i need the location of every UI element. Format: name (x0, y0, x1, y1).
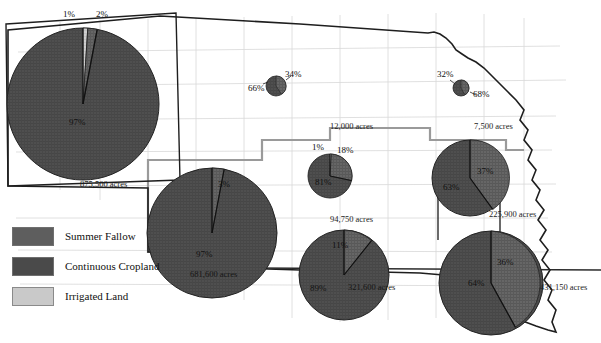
pie-north-central-label-fallow: 34% (285, 70, 302, 79)
pie-central-acres-top: 12,000 acres (330, 122, 373, 131)
legend-label-continuous-cropland: Continuous Cropland (65, 260, 159, 272)
pie-north-central-label-cropland: 66% (248, 84, 265, 93)
legend-swatch-summer-fallow (12, 227, 54, 246)
pie-northeast-label-fallow: 32% (437, 70, 454, 79)
pie-south-central-acres: 321,600 acres (348, 283, 395, 292)
pie-south-central-label-fallow: 11% (332, 241, 348, 250)
pie-east-central-label-fallow: 37% (477, 167, 494, 176)
pie-southwest-label-cropland: 97% (196, 250, 213, 259)
map-figure: 1% 2% 97% 875,500 acres 66% 34% 12,000 a… (0, 0, 601, 343)
legend-swatch-continuous-cropland (12, 257, 54, 276)
pie-southeast-acres: 431,150 acres (540, 283, 587, 292)
pie-northeast (453, 80, 469, 96)
pie-east-central-label-cropland: 63% (443, 183, 460, 192)
pie-northwest (7, 28, 159, 180)
pie-northwest-label-cropland: 97% (69, 118, 86, 127)
pie-southwest-acres: 681,600 acres (190, 270, 237, 279)
pie-north-central (266, 76, 286, 96)
pie-northwest-label-fallow: 2% (96, 10, 108, 19)
pie-northwest-acres: 875,500 acres (80, 180, 127, 189)
pie-east-central (432, 140, 509, 216)
pie-central-label-fallow: 18% (337, 146, 354, 155)
pie-northeast-acres: 7,500 acres (474, 122, 513, 131)
legend-swatch-irrigated-land (12, 287, 54, 306)
pie-central (308, 154, 352, 198)
pie-southwest-label-fallow: 3% (218, 180, 230, 189)
legend-item-irrigated-land: Irrigated Land (12, 285, 162, 307)
pie-southeast-label-fallow: 36% (497, 258, 514, 267)
legend-label-summer-fallow: Summer Fallow (65, 230, 136, 242)
pie-central-label-cropland: 81% (315, 178, 332, 187)
pie-south-central-label-cropland: 89% (310, 284, 327, 293)
legend-label-irrigated-land: Irrigated Land (65, 290, 128, 302)
legend-item-summer-fallow: Summer Fallow (12, 225, 162, 247)
pie-southeast (439, 231, 543, 335)
pie-southeast-label-cropland: 64% (468, 279, 485, 288)
pie-northwest-label-irrigated: 1% (63, 10, 75, 19)
pie-northeast-label-cropland: 68% (473, 90, 490, 99)
legend-item-continuous-cropland: Continuous Cropland (12, 255, 162, 277)
pie-east-central-acres: 225,900 acres (489, 210, 536, 219)
pie-central-acres: 94,750 acres (330, 215, 373, 224)
legend: Summer Fallow Continuous Cropland Irriga… (12, 225, 162, 315)
pie-central-label-irrigated: 1% (312, 143, 324, 152)
